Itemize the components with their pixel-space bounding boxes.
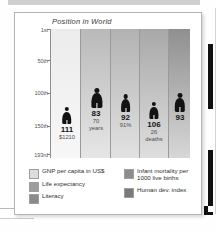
legend-column-right: Infant mortality per 1000 live births Hu… [124,168,204,200]
pictogram-gnp [60,107,73,124]
data-label-gnp-detail: $1210 [51,134,83,141]
y-tick-label-150th: 150th [35,123,49,129]
pictogram-infant-mortality [148,102,160,119]
data-label-life-expectancy-detail-value: 70 [80,118,112,125]
data-label-infant-mortality-detail-value: 26 [138,129,170,136]
legend-swatch-life-expectancy [29,182,39,192]
chart-title: Position in World [52,17,112,26]
data-label-infant-mortality: 106 26 deaths [138,120,170,142]
data-label-gnp: 111 $1210 [51,125,83,141]
data-label-literacy: 92 91% [110,113,141,129]
screenshot-root: Position in World 1st 50th 100th 150th 1… [0,0,216,231]
chart-legend: GNP per capita in US$ Life expectancy Li… [23,168,193,208]
page-top-band-highlight [8,5,200,7]
legend-item-infant-mortality[interactable]: Infant mortality per 1000 live births [124,168,204,187]
legend-label-life-expectancy: Life expectancy [42,181,85,188]
data-label-life-expectancy: 83 70 years [80,109,112,131]
legend-label-gnp: GNP per capita in US$ [42,168,104,175]
legend-swatch-infant-mortality [124,169,134,179]
y-tick-label-193rd: 193rd [34,152,48,158]
data-label-human-dev-index: 93 [164,113,196,122]
page-edge-line-right [215,8,216,214]
legend-label-literacy: Literacy [42,193,64,200]
page-marker-bar-bottom [208,150,213,212]
chart-card: Position in World 1st 50th 100th 150th 1… [14,12,202,215]
pictogram-literacy [119,94,132,112]
pictogram-life-expectancy [89,88,104,108]
y-tick-label-100th: 100th [35,90,49,96]
page-edge-line-left-secondary [0,218,34,219]
data-label-literacy-detail: 91% [110,122,141,129]
page-marker-bar-top [208,44,213,109]
legend-swatch-literacy [29,194,39,204]
legend-item-gnp[interactable]: GNP per capita in US$ [29,168,124,181]
legend-column-left: GNP per capita in US$ Life expectancy Li… [29,168,124,206]
data-label-life-expectancy-detail-unit: years [80,125,112,132]
data-label-life-expectancy-rank: 83 [80,109,112,118]
legend-label-infant-mortality-line2: 1000 live births [137,175,179,182]
data-label-gnp-rank: 111 [51,125,83,134]
pictogram-human-dev-index [173,93,187,112]
page-marker-corner-inner [208,206,213,212]
legend-item-literacy[interactable]: Literacy [29,193,124,206]
data-label-human-dev-index-rank: 93 [164,113,196,122]
legend-label-human-dev-index: Human dev. index [137,187,186,194]
legend-item-human-dev-index[interactable]: Human dev. index [124,187,204,200]
legend-swatch-gnp [29,169,39,179]
legend-swatch-human-dev-index [124,188,134,198]
data-label-infant-mortality-detail-unit: deaths [138,136,170,143]
data-label-literacy-rank: 92 [110,113,141,122]
